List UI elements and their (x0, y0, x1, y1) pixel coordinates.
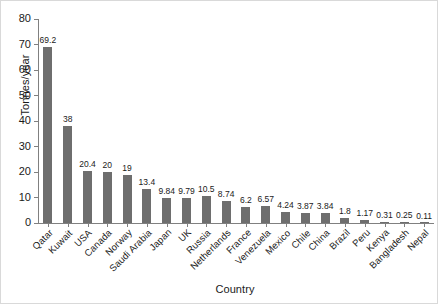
x-category-label: Nepal (405, 227, 431, 253)
x-tick-mark (325, 223, 326, 227)
x-axis-line (38, 223, 434, 224)
x-tick-mark (206, 223, 207, 227)
bar-value-label: 0.25 (396, 210, 413, 220)
bar-value-label: 8.74 (218, 189, 235, 199)
bar (123, 175, 132, 223)
bar-value-label: 20.4 (79, 159, 96, 169)
bar (321, 213, 330, 223)
bar (340, 218, 349, 223)
bar (162, 198, 171, 223)
y-tick-label: 30 (1, 140, 31, 152)
x-tick-mark (226, 223, 227, 227)
bar (241, 207, 250, 223)
bar-value-label: 1.8 (339, 206, 351, 216)
x-tick-mark (127, 223, 128, 227)
y-tick-label: 70 (1, 38, 31, 50)
y-tick-label: 20 (1, 165, 31, 177)
bar (301, 213, 310, 223)
bar (83, 171, 92, 223)
bar-value-label: 9.84 (158, 186, 175, 196)
bar (420, 222, 429, 223)
bar-value-label: 0.11 (416, 211, 432, 221)
bar (103, 172, 112, 223)
x-tick-mark (385, 223, 386, 227)
x-tick-mark (404, 223, 405, 227)
bar-value-label: 13.4 (139, 177, 156, 187)
bar (63, 126, 72, 223)
bar-value-label: 6.57 (257, 194, 274, 204)
bar-value-label: 0.31 (376, 210, 393, 220)
y-axis-title: Tonnes/year (19, 15, 31, 155)
plot-area (38, 19, 434, 223)
bar (380, 222, 389, 223)
bar-value-label: 19 (122, 163, 131, 173)
x-category-label: Brazil (327, 227, 352, 252)
bar-value-label: 38 (63, 114, 72, 124)
bar (222, 201, 231, 223)
bar-chart-figure: Tonnes/year 01020304050607080 QatarKuwai… (0, 0, 438, 304)
bar (400, 222, 409, 223)
bar (142, 189, 151, 223)
bar (182, 198, 191, 223)
bar (202, 196, 211, 223)
x-tick-mark (167, 223, 168, 227)
x-tick-mark (48, 223, 49, 227)
y-tick-label: 10 (1, 191, 31, 203)
x-tick-mark (345, 223, 346, 227)
bar-value-label: 3.87 (297, 201, 314, 211)
y-tick-label: 80 (1, 12, 31, 24)
x-tick-mark (286, 223, 287, 227)
y-tick-label: 60 (1, 63, 31, 75)
y-tick-label: 0 (1, 216, 31, 228)
x-tick-mark (147, 223, 148, 227)
x-tick-mark (68, 223, 69, 227)
x-tick-mark (305, 223, 306, 227)
x-tick-mark (107, 223, 108, 227)
x-tick-mark (88, 223, 89, 227)
x-category-label: China (306, 227, 332, 253)
bar-value-label: 9.79 (178, 186, 195, 196)
bar-value-label: 3.84 (317, 201, 334, 211)
x-tick-mark (187, 223, 188, 227)
bar (261, 206, 270, 223)
x-axis-title: Country (37, 283, 433, 295)
bar (281, 212, 290, 223)
x-tick-mark (266, 223, 267, 227)
y-tick-label: 40 (1, 114, 31, 126)
x-tick-mark (424, 223, 425, 227)
bar-value-label: 6.2 (240, 195, 252, 205)
bar (43, 47, 52, 223)
bar-value-label: 20 (103, 160, 112, 170)
bar-value-label: 1.17 (356, 208, 373, 218)
x-category-label: Japan (147, 227, 173, 253)
y-tick-label: 50 (1, 89, 31, 101)
bar-value-label: 69.2 (40, 35, 57, 45)
bar (360, 220, 369, 223)
bar-value-label: 10.5 (198, 184, 215, 194)
bar-value-label: 4.24 (277, 200, 294, 210)
